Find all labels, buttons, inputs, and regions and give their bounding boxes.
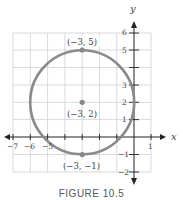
y-tick-neg1: −1: [118, 150, 129, 159]
circle-graph: y x −7 −6 −5 1 6 5 3 2 1 −1 −2 (−3, 5) (…: [0, 0, 183, 200]
y-tick-neg2: −2: [118, 168, 129, 177]
y-axis-arrow-down: [131, 178, 137, 185]
x-tick-neg5: −5: [42, 142, 53, 151]
point-top-label: (−3, 5): [67, 37, 97, 47]
x-axis-arrow-left: [4, 134, 10, 140]
y-axis-label: y: [129, 3, 136, 14]
y-tick-2: 2: [122, 98, 127, 107]
y-tick-1: 1: [122, 115, 127, 124]
x-tick-neg7: −7: [7, 142, 18, 151]
figure-caption: FIGURE 10.5: [0, 188, 183, 199]
x-tick-1: 1: [148, 142, 153, 151]
point-center: [80, 100, 85, 105]
point-bottom-label: (−3, −1): [63, 161, 100, 171]
x-tick-neg6: −6: [24, 142, 35, 151]
y-tick-5: 5: [122, 46, 127, 55]
y-tick-3: 3: [122, 81, 127, 90]
point-top: [80, 47, 85, 52]
x-axis-label: x: [171, 131, 177, 142]
point-center-label: (−3, 2): [67, 109, 97, 119]
y-axis-arrow-up: [131, 21, 137, 28]
y-tick-6: 6: [122, 28, 127, 37]
figure: y x −7 −6 −5 1 6 5 3 2 1 −1 −2 (−3, 5) (…: [0, 0, 183, 200]
point-bottom: [80, 152, 85, 157]
x-axis-arrow-right: [160, 134, 166, 140]
